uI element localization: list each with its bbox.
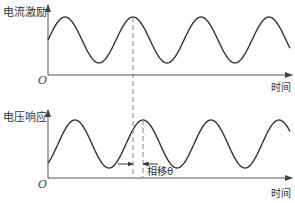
current-excitation-curve	[48, 17, 290, 63]
top-ylabel: 电流激励	[3, 5, 47, 19]
bottom-xlabel: 时间	[271, 187, 291, 199]
top-plot: 电流激励 O 时间	[3, 5, 292, 93]
phase-shift-label: 相移θ	[147, 165, 173, 177]
bottom-origin-label: O	[38, 178, 47, 191]
bottom-ylabel: 电压响应	[3, 110, 47, 124]
voltage-response-curve	[48, 120, 290, 168]
phase-shift-diagram: 电流激励 O 时间 电压响应 O 时间 相移θ	[0, 0, 295, 203]
bottom-plot: 电压响应 O 时间	[3, 110, 292, 199]
top-origin-label: O	[38, 74, 47, 87]
top-xlabel: 时间	[271, 81, 291, 93]
